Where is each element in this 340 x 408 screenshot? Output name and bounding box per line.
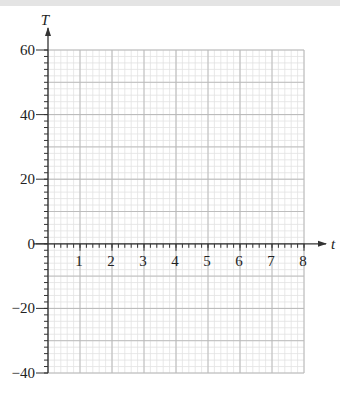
x-axis-arrow-icon [318, 241, 327, 247]
y-tick-label: 40 [20, 107, 35, 123]
x-tick-label: 3 [139, 253, 147, 269]
y-tick-label: −40 [12, 365, 35, 381]
x-axis-label: t [331, 236, 336, 252]
y-axis-arrow-icon [45, 27, 51, 36]
y-axis-label: T [41, 12, 51, 28]
y-tick-label: −20 [12, 300, 35, 316]
x-tick-label: 5 [203, 253, 211, 269]
y-tick-label: 60 [20, 42, 35, 58]
x-tick-label: 7 [267, 253, 275, 269]
x-tick-label: 4 [171, 253, 179, 269]
y-tick-label: 20 [20, 171, 35, 187]
x-tick-label: 8 [299, 253, 307, 269]
x-tick-label: 6 [235, 253, 243, 269]
x-tick-label: 1 [75, 253, 83, 269]
empty-graph-grid: 6040200−20−4012345678Tt [0, 0, 340, 408]
x-tick-label: 2 [107, 253, 115, 269]
y-tick-label: 0 [28, 236, 36, 252]
